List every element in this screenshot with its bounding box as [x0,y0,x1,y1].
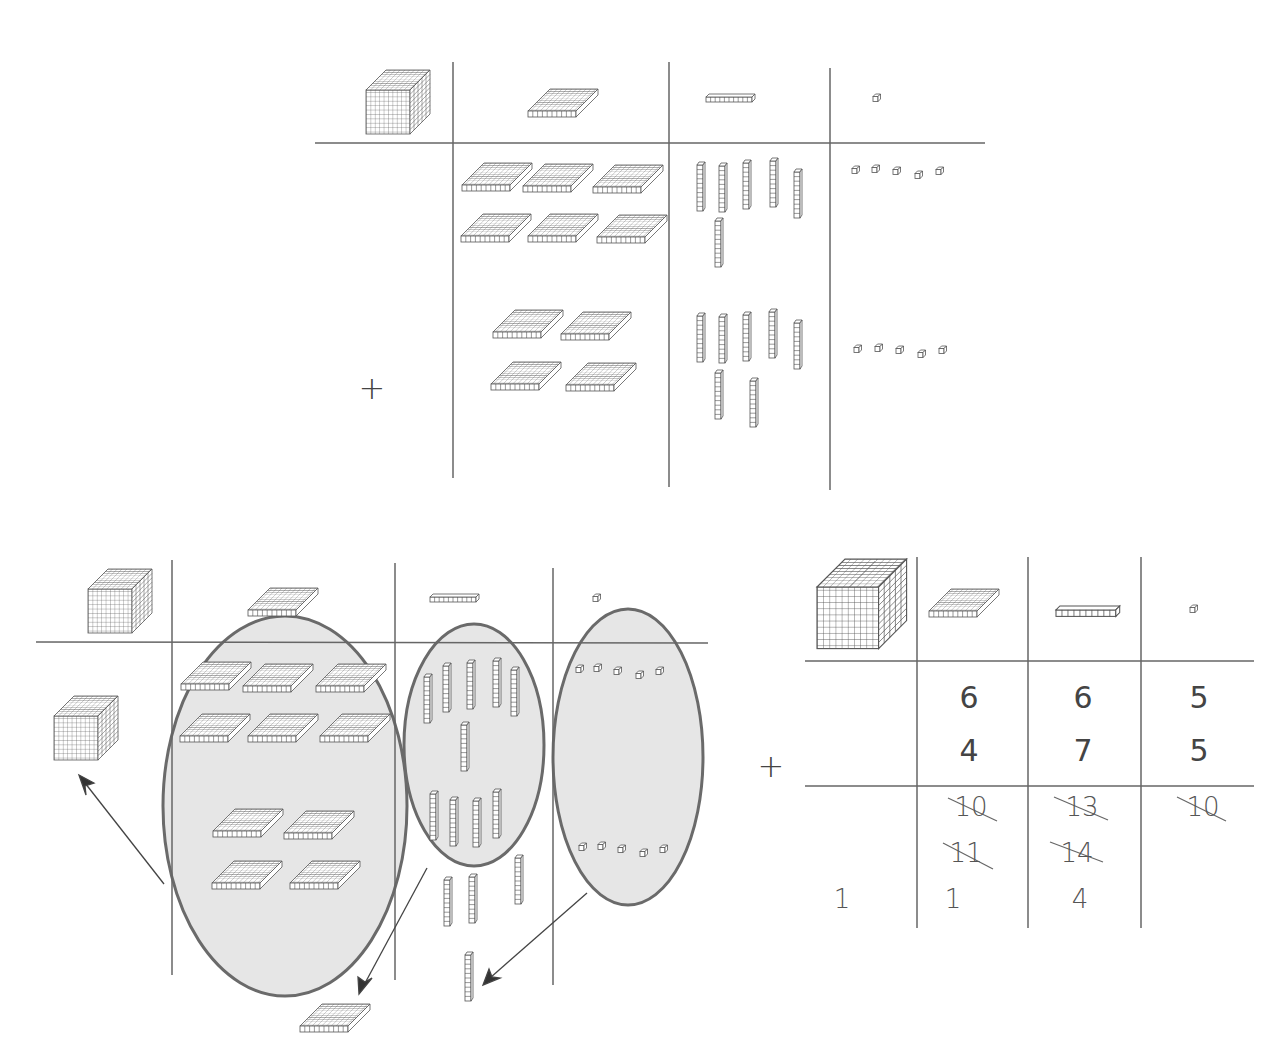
addend1-ones [852,165,944,179]
ten-rod-icon [1056,606,1120,616]
unit-cube-icon [593,594,601,602]
hundred-flat-icon [248,588,318,616]
answer-tens-digit: 4 [1072,884,1089,914]
hundred-flat-icon [929,589,999,617]
addend1-hundreds-digit: 6 [959,680,978,715]
addend1-tens [697,158,802,267]
ten-rod-icon [706,94,755,102]
addend2-hundreds-digit: 4 [959,733,978,768]
answer-hundreds-digit: 1 [945,884,962,914]
work-ones-10-struck: 10 [1186,792,1219,822]
addend2-ones [854,344,947,358]
plus-sign: + [758,747,785,785]
unit-cube-icon [873,94,881,102]
diagram-canvas [0,0,1284,1053]
addend1-hundreds [461,163,667,243]
group-ten-ones-oval [553,609,703,905]
arrow-to-thousands [85,783,164,884]
thousand-cube-icon [817,559,907,649]
ten-rod-icon [430,594,479,602]
arrow-to-tens [490,893,587,978]
addend1-tens-digit: 6 [1073,680,1092,715]
new-hundred-flat-icon [300,1004,370,1032]
new-thousand-cube-icon [54,696,118,760]
header-divider [36,642,708,643]
plus-sign: + [359,369,386,407]
panel-regroup-mat [36,560,708,1032]
work-hundreds-11-struck: 11 [949,838,982,868]
panel-top-place-value-mat [315,62,985,490]
addend2-ones-digit: 5 [1189,733,1208,768]
thousand-cube-icon [88,569,152,633]
panel-number-table [805,557,1254,928]
addend2-hundreds [491,310,636,391]
work-tens-14-struck: 14 [1060,838,1093,868]
addend2-tens-digit: 7 [1073,733,1092,768]
unit-cube-icon [1190,605,1198,613]
arrow-head-icon [358,977,372,994]
work-tens-13-struck: 13 [1065,792,1098,822]
hundred-flat-icon [528,89,598,117]
answer-thousands-digit: 1 [834,884,851,914]
thousand-cube-icon [366,70,430,134]
work-hundreds-10-struck: 10 [954,792,987,822]
addend1-ones-digit: 5 [1189,680,1208,715]
new-ten-rod-icon [465,952,473,1001]
addend2-tens [697,309,802,427]
